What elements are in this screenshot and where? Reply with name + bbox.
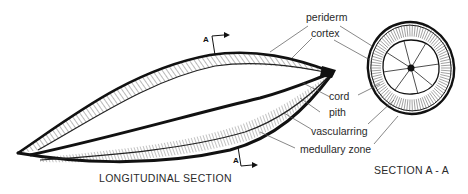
cross-section — [359, 14, 462, 122]
caption-longitudinal-section: LONGITUDINAL SECTION — [99, 173, 232, 184]
upper-cortex-band — [20, 54, 330, 153]
section-mark-bottom-line — [238, 147, 252, 166]
label-cortex: cortex — [311, 28, 340, 39]
section-mark-a-bottom: A — [233, 157, 239, 165]
cord-center — [408, 65, 415, 72]
section-mark-top-line — [212, 35, 224, 55]
longitudinal-section — [18, 32, 336, 168]
section-mark-top-arrow — [224, 32, 230, 38]
caption-cross-section: SECTION A - A — [374, 165, 449, 176]
label-pith: pith — [329, 107, 346, 118]
label-periderm: periderm — [306, 12, 347, 23]
section-mark-bottom-arrow — [252, 162, 258, 168]
section-mark-a-top: A — [203, 36, 209, 44]
label-medullary-zone: medullary zone — [300, 144, 371, 155]
label-vascular-ring: vascularring — [311, 126, 368, 137]
crown-tip — [320, 66, 336, 78]
label-cord: cord — [329, 91, 349, 102]
